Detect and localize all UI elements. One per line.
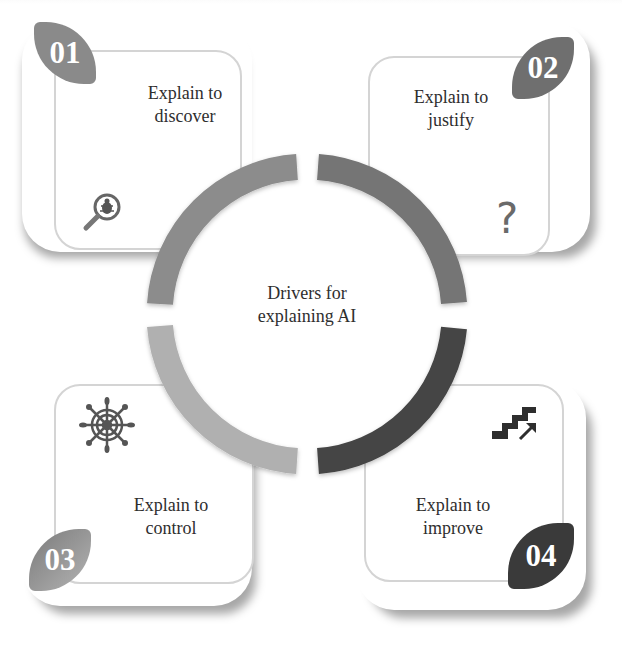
center-title-line2: explaining AI (207, 305, 407, 328)
center-title-line1: Drivers for (207, 282, 407, 305)
center-title: Drivers for explaining AI (207, 282, 407, 328)
